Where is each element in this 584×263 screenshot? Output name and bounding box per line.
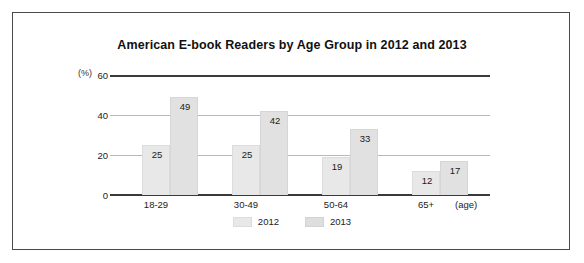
x-tick-label-50-64: 50-64: [296, 199, 376, 210]
bar-value-label: 49: [171, 101, 199, 112]
bar-value-label: 25: [143, 149, 171, 160]
legend-swatch-icon: [305, 217, 324, 227]
y-tick-label-40: 40: [82, 110, 108, 121]
legend-item-2013: 2013: [305, 216, 351, 227]
bar-value-label: 25: [233, 149, 261, 160]
legend-label: 2013: [330, 216, 351, 227]
chart-figure: American E-book Readers by Age Group in …: [0, 0, 584, 263]
gridline-60: [110, 75, 490, 77]
y-tick-label-0: 0: [82, 190, 108, 201]
bar-value-label: 42: [261, 115, 289, 126]
x-tick-label-65plus: 65+: [386, 199, 466, 210]
bar-65plus-2013: 17: [440, 161, 468, 195]
x-tick-label-30-49: 30-49: [206, 199, 286, 210]
legend-item-2012: 2012: [233, 216, 279, 227]
gridline-40: [110, 115, 490, 116]
bar-value-label: 19: [323, 161, 351, 172]
y-tick-label-20: 20: [82, 150, 108, 161]
bar-50-64-2013: 33: [350, 129, 378, 195]
chart-legend: 2012 2013: [0, 216, 584, 227]
bar-value-label: 17: [441, 165, 469, 176]
page-title: American E-book Readers by Age Group in …: [0, 38, 584, 52]
legend-swatch-icon: [233, 217, 252, 227]
bar-value-label: 33: [351, 133, 379, 144]
y-tick-label-60: 60: [82, 70, 108, 81]
bar-50-64-2012: 19: [322, 157, 350, 195]
plot-area: 25 49 25 42 19 33 12 17: [110, 75, 490, 195]
legend-label: 2012: [258, 216, 279, 227]
bar-30-49-2012: 25: [232, 145, 260, 195]
bar-18-29-2013: 49: [170, 97, 198, 195]
x-axis-unit-label: (age): [455, 199, 477, 210]
bar-30-49-2013: 42: [260, 111, 288, 195]
bar-value-label: 12: [413, 175, 441, 186]
x-tick-label-18-29: 18-29: [116, 199, 196, 210]
bar-65plus-2012: 12: [412, 171, 440, 195]
bar-18-29-2012: 25: [142, 145, 170, 195]
